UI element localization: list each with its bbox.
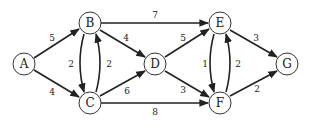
node-label: E (216, 16, 225, 30)
edge-weight-label: 2 (254, 84, 260, 94)
edge-weight-label: 2 (235, 59, 241, 69)
node-g: G (276, 53, 298, 75)
edge-c-f: 8 (101, 103, 208, 117)
node-label: C (85, 96, 94, 110)
edge-weight-label: 8 (152, 107, 158, 117)
edge-f-e: 2 (226, 34, 241, 92)
edge-weight-label: 1 (202, 59, 208, 69)
edge-weight-label: 6 (124, 86, 130, 96)
node-e: E (209, 12, 231, 34)
node-label: G (282, 57, 292, 71)
edge-c-d: 6 (100, 71, 145, 96)
edge-f-g: 2 (230, 71, 277, 96)
edge-weight-label: 5 (49, 33, 55, 43)
edge-weight-label: 4 (123, 33, 129, 43)
edge-d-e: 5 (165, 29, 209, 57)
node-d: D (144, 53, 166, 75)
edge-a-b: 5 (34, 29, 79, 58)
node-label: A (19, 57, 29, 71)
edge-d-f: 3 (165, 71, 209, 97)
edge-e-g: 3 (230, 30, 277, 57)
edge-b-e: 7 (101, 10, 208, 23)
edge-weight-label: 7 (152, 10, 158, 20)
graph-diagram: 5 4 2 2 4 6 7 8 5 3 1 2 (0, 0, 312, 128)
edge-weight-label: 5 (180, 33, 186, 43)
edge-weight-label: 2 (68, 59, 74, 69)
edge-b-d: 4 (100, 30, 145, 57)
node-f: F (209, 92, 231, 114)
node-label: F (216, 96, 224, 110)
edge-b-c: 2 (68, 34, 84, 92)
node-a: A (13, 53, 35, 75)
node-b: B (79, 12, 101, 34)
edge-weight-label: 3 (180, 85, 186, 95)
edge-weight-label: 2 (106, 59, 112, 69)
node-label: D (150, 57, 160, 71)
edge-weight-label: 3 (253, 33, 259, 43)
edge-c-b: 2 (96, 34, 112, 92)
edge-a-c: 4 (34, 70, 79, 97)
node-label: B (86, 16, 95, 30)
edge-e-f: 1 (202, 34, 214, 92)
edge-weight-label: 4 (49, 87, 55, 97)
node-c: C (79, 92, 101, 114)
